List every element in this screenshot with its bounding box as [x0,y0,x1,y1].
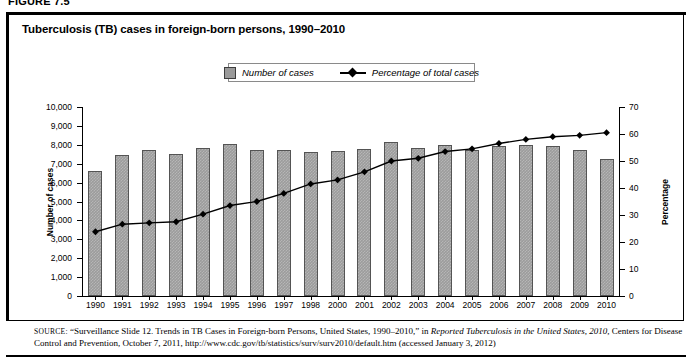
x-axis-tick-label: 2009 [570,300,589,310]
x-axis-tick-label: 1994 [194,300,213,310]
source-label: SOURCE: [34,327,68,336]
y-axis-left-tick-label: 2,000 [51,254,72,263]
x-axis-tick-label: 1998 [301,300,320,310]
plot-area: Number of cases Percentage 10,0009,0008,… [82,107,620,296]
x-axis-tick-label: 1990 [86,300,105,310]
x-axis-tick-label: 2005 [463,300,482,310]
y-axis-right-title: Percentage [660,179,670,225]
x-axis-tick-label: 2007 [516,300,535,310]
x-axis-labels: 1990199119921993199419951996199719982000… [82,300,620,314]
y-axis-right-tick [620,188,625,189]
chart-legend: Number of cases Percentage of total case… [228,63,475,82]
bar-swatch-icon [224,67,236,79]
y-axis-right-tick-label: 40 [629,184,638,193]
percentage-line-marker [442,148,449,155]
x-axis-tick-label: 1991 [113,300,132,310]
line-diamond-marker-icon [340,68,366,78]
x-axis-tick-label: 2006 [489,300,508,310]
y-axis-left-tick-label: 8,000 [51,141,72,150]
percentage-line-marker [119,221,126,228]
x-axis-tick-label: 1995 [220,300,239,310]
percentage-line-marker [307,181,314,188]
percentage-line-marker [549,133,556,140]
x-axis-tick-label: 1996 [247,300,266,310]
chart-title: Tuberculosis (TB) cases in foreign-born … [22,23,345,35]
x-axis-tick-label: 2010 [597,300,616,310]
y-axis-right-tick-label: 0 [629,292,634,301]
y-axis-right-tick-label: 60 [629,130,638,139]
x-axis-tick-label: 1997 [274,300,293,310]
percentage-line-marker [200,211,207,218]
y-axis-right-tick-label: 50 [629,157,638,166]
legend-label-percentage-of-total-cases: Percentage of total cases [372,67,479,78]
y-axis-left-tick-label: 3,000 [51,235,72,244]
percentage-line-marker [280,190,287,197]
percentage-line-marker [576,132,583,139]
percentage-line-marker [496,140,503,147]
percentage-line-marker [388,158,395,165]
y-axis-right-tick-label: 30 [629,211,638,220]
percentage-line-marker [522,136,529,143]
x-axis-tick-label: 2008 [543,300,562,310]
figure-number: FIGURE 7.5 [8,0,70,7]
percentage-line-marker [173,218,180,225]
y-axis-left-tick-label: 7,000 [51,160,72,169]
percentage-line-marker [253,198,260,205]
x-axis-tick-label: 2002 [382,300,401,310]
y-axis-left-tick-label: 10,000 [46,103,72,112]
source-text-1: “Surveillance Slide 12. Trends in TB Cas… [70,326,431,336]
x-axis-tick-label: 2001 [355,300,374,310]
percentage-line-marker [415,155,422,162]
y-axis-right-tick [620,215,625,216]
percentage-line-marker [227,202,234,209]
y-axis-left-tick-label: 0 [67,292,72,301]
y-axis-right-tick [620,107,625,108]
y-axis-left-tick-label: 4,000 [51,216,72,225]
y-axis-left-tick-label: 6,000 [51,179,72,188]
source-note: SOURCE: “Surveillance Slide 12. Trends i… [34,326,684,349]
x-axis-tick-label: 1993 [167,300,186,310]
y-axis-left-tick-label: 9,000 [51,122,72,131]
y-axis-right-tick-label: 20 [629,238,638,247]
figure-bottom-rule [6,355,686,357]
y-axis-left-tick-label: 1,000 [51,273,72,282]
x-axis-tick-label: 1992 [140,300,159,310]
legend-label-number-of-cases: Number of cases [242,67,314,78]
percentage-line-marker [92,228,99,235]
y-axis-right-tick-label: 70 [629,103,638,112]
percentage-line-marker [361,168,368,175]
percentage-line-path [95,133,606,232]
y-axis-right-tick [620,296,625,297]
percentage-line-marker [469,145,476,152]
y-axis-right-tick [620,269,625,270]
y-axis-right-tick [620,134,625,135]
percentage-line-marker [334,177,341,184]
y-axis-left-tick-label: 5,000 [51,198,72,207]
percentage-line-marker [146,219,153,226]
x-axis-tick-label: 2004 [436,300,455,310]
source-italic-1: Reported Tuberculosis in the United Stat… [431,326,610,336]
figure-container: FIGURE 7.5 Tuberculosis (TB) cases in fo… [0,0,692,359]
x-axis-tick-label: 2003 [409,300,428,310]
percentage-line-series [82,107,620,296]
y-axis-right-tick [620,242,625,243]
legend-item-percentage-of-total-cases: Percentage of total cases [340,67,479,78]
percentage-line-marker [603,129,610,136]
x-axis-tick-label: 2000 [328,300,347,310]
y-axis-left-tick [77,296,82,297]
y-axis-right-tick-label: 10 [629,265,638,274]
x-axis-line [82,296,620,297]
legend-item-number-of-cases: Number of cases [224,67,314,79]
y-axis-right-tick [620,161,625,162]
